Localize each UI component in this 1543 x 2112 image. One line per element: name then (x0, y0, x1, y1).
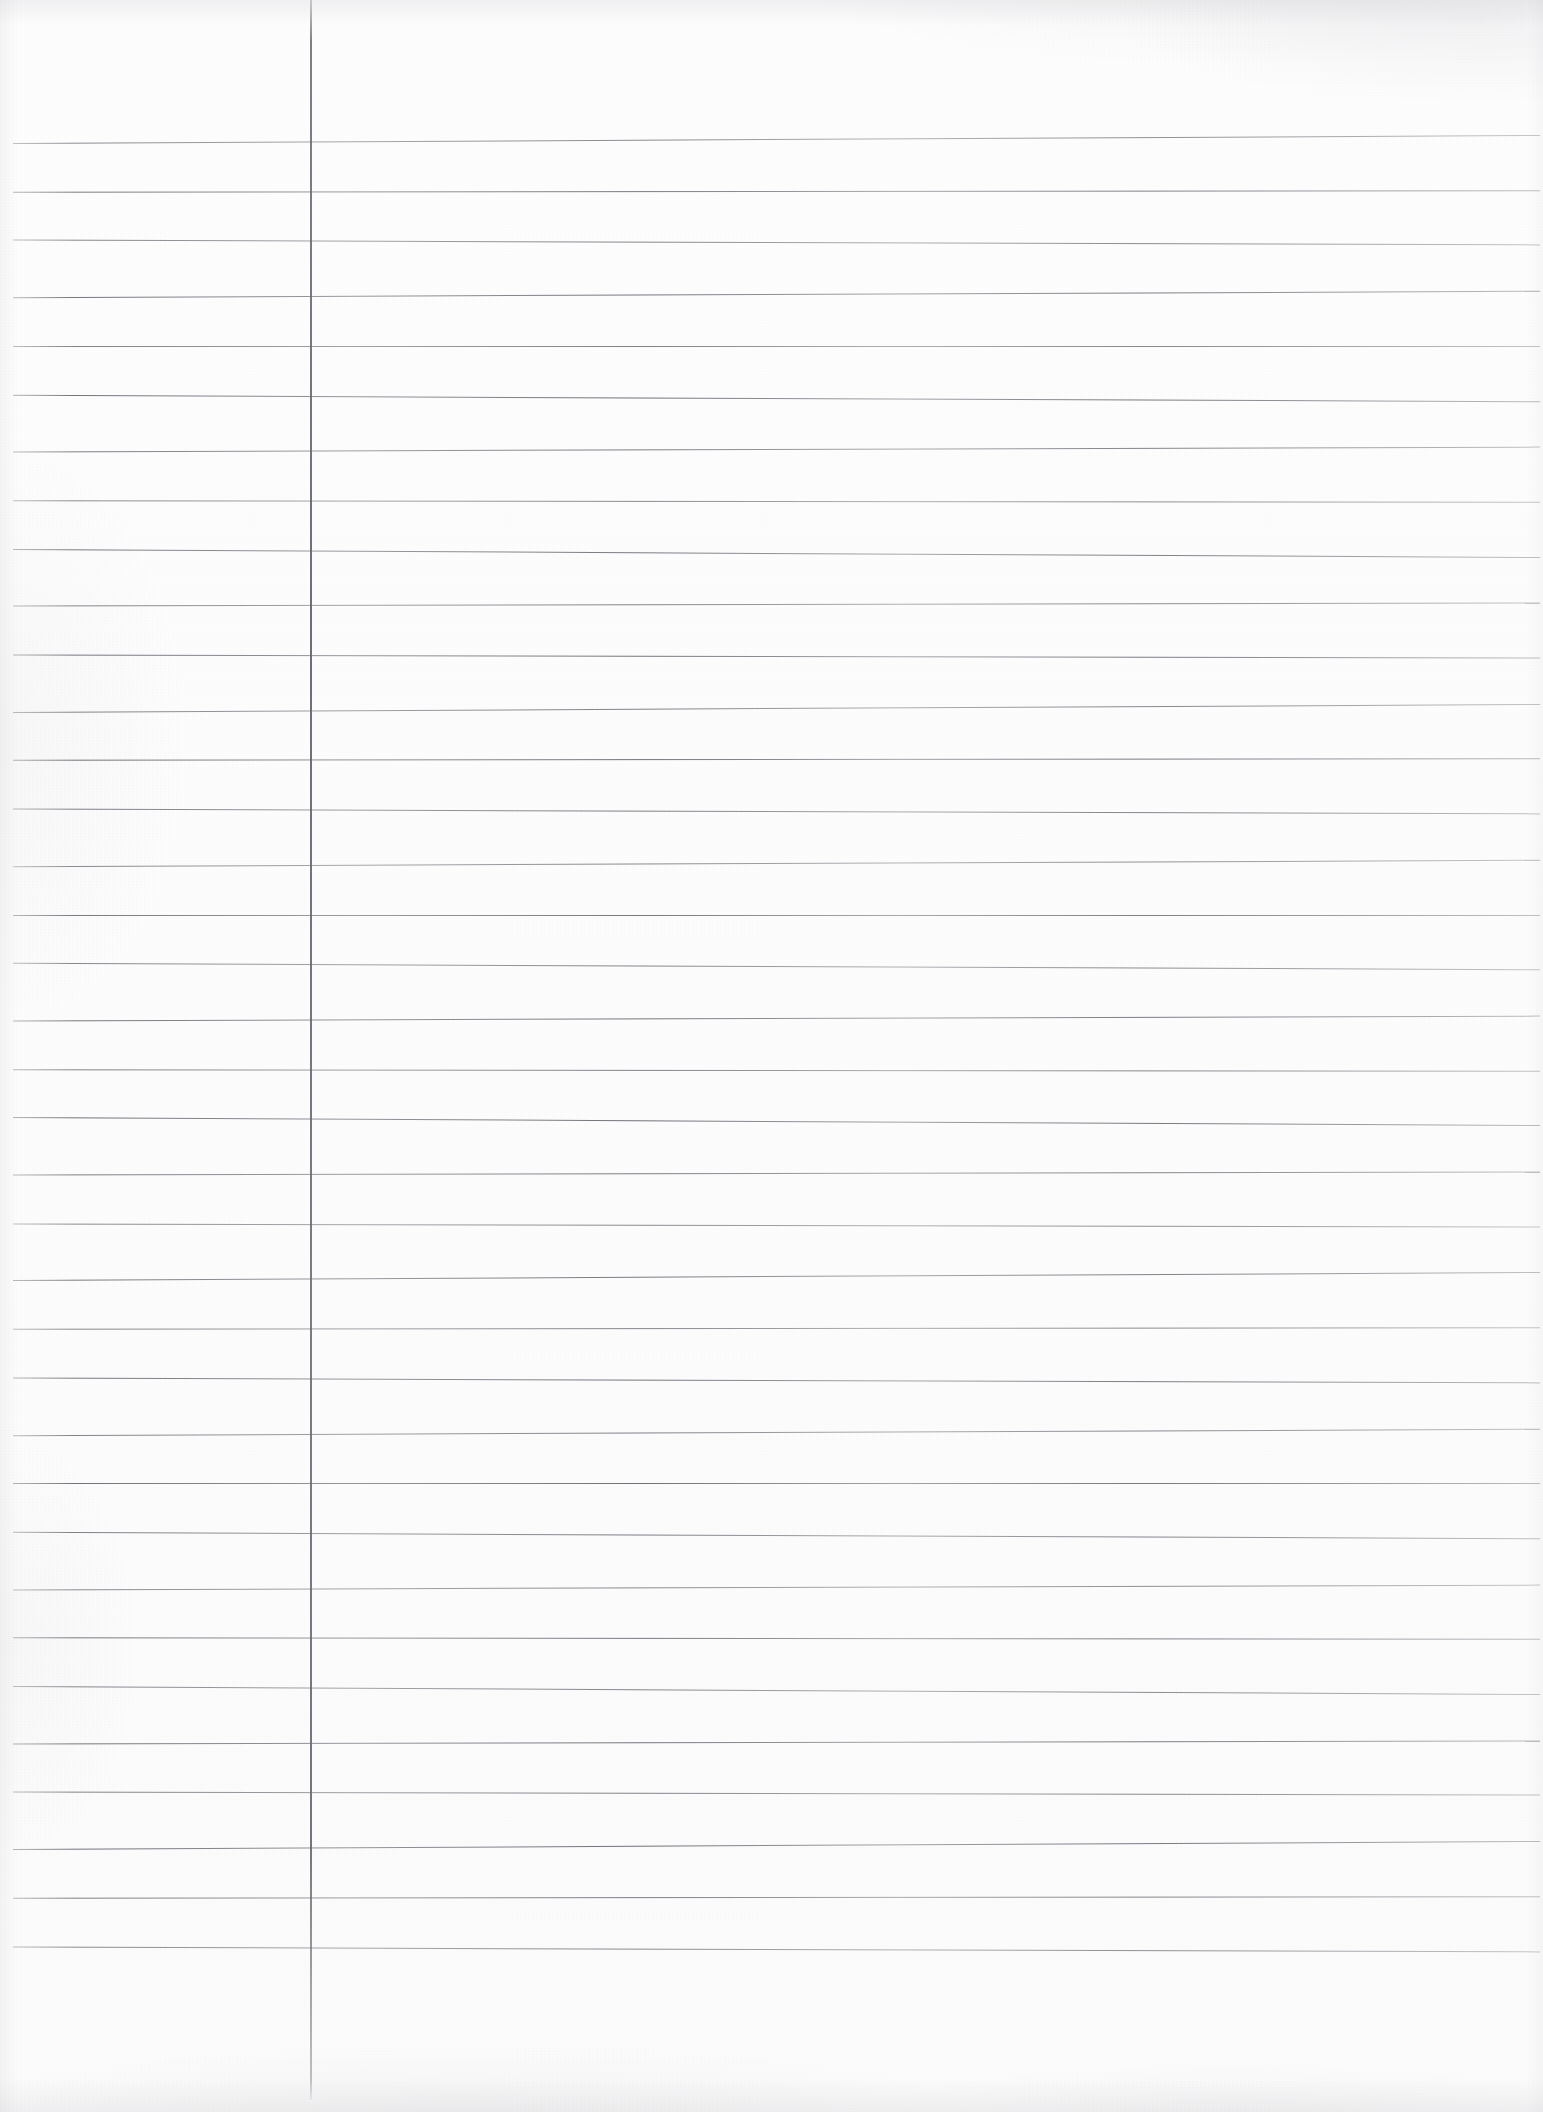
left-margin-area[interactable] (0, 0, 310, 2112)
footer-area[interactable] (0, 1949, 1543, 2112)
writing-body-area[interactable] (310, 139, 1540, 1949)
notebook-page (0, 0, 1543, 2112)
